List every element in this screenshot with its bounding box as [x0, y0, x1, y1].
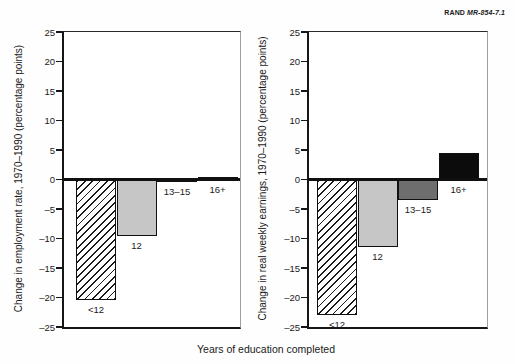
y-tick-mark [56, 179, 62, 181]
y-tick-label: –25 [27, 322, 55, 333]
y-tick-label: 15 [27, 86, 55, 97]
bar-label: <12 [72, 304, 120, 315]
bar-label: 16+ [435, 184, 483, 195]
y-tick-mark [301, 149, 307, 151]
y-tick-mark [56, 326, 62, 328]
y-tick-label: –5 [27, 204, 55, 215]
y-tick-label: –5 [272, 204, 300, 215]
bar-label: 16+ [194, 184, 242, 195]
y-tick-mark [301, 179, 307, 181]
y-tick-label: –10 [27, 233, 55, 244]
credit-document-id: MR-854-7.1 [467, 9, 505, 16]
y-tick-label: 10 [27, 115, 55, 126]
bar-13–15 [398, 180, 438, 201]
y-tick-label: 0 [27, 174, 55, 185]
y-tick-label: –20 [27, 292, 55, 303]
y-tick-mark [56, 61, 62, 63]
y-tick-label: –10 [272, 233, 300, 244]
right-y-axis-label: Change in real weekly earnings, 1970–199… [256, 14, 269, 344]
y-tick-mark [56, 120, 62, 122]
y-tick-mark [56, 208, 62, 210]
zero-baseline [64, 178, 240, 180]
y-tick-mark [301, 61, 307, 63]
y-tick-mark [301, 31, 307, 33]
y-tick-mark [301, 238, 307, 240]
y-tick-label: –15 [272, 263, 300, 274]
y-tick-mark [301, 297, 307, 299]
y-tick-label: –25 [272, 322, 300, 333]
y-tick-label: 20 [27, 56, 55, 67]
y-tick-mark [56, 267, 62, 269]
y-tick-label: 25 [27, 27, 55, 38]
y-tick-mark [301, 208, 307, 210]
bar-12 [117, 180, 157, 236]
bar-16+ [439, 153, 479, 180]
x-axis-label: Years of education completed [20, 343, 512, 355]
y-tick-mark [56, 149, 62, 151]
bar-<12 [76, 180, 116, 301]
y-tick-mark [56, 297, 62, 299]
y-tick-label: 20 [272, 56, 300, 67]
figure-credit: RAND MR-854-7.1 [444, 9, 505, 16]
bar-label: 13–15 [394, 204, 442, 215]
y-tick-mark [301, 326, 307, 328]
employment-rate-plot: 2520151050–5–10–15–20–25<121213–1516+ [62, 31, 241, 329]
y-tick-label: 0 [272, 174, 300, 185]
y-tick-mark [301, 120, 307, 122]
bar-label: 12 [113, 240, 161, 251]
credit-brand: RAND [444, 9, 465, 16]
y-tick-label: 15 [272, 86, 300, 97]
y-tick-mark [56, 31, 62, 33]
y-tick-label: 5 [27, 145, 55, 156]
bar-12 [358, 180, 398, 248]
y-tick-label: 5 [272, 145, 300, 156]
y-tick-label: 10 [272, 115, 300, 126]
zero-baseline [309, 178, 487, 180]
weekly-earnings-plot: 2520151050–5–10–15–20–25<121213–1516+ [307, 31, 488, 329]
left-y-axis-label: Change in employment rate, 1970–1990 (pe… [12, 14, 25, 344]
bar-label: 12 [354, 251, 402, 262]
y-tick-label: –15 [27, 263, 55, 274]
rand-figure: RAND MR-854-7.1 Change in employment rat… [0, 0, 514, 364]
y-tick-label: –20 [272, 292, 300, 303]
y-tick-label: 25 [272, 27, 300, 38]
bar-<12 [317, 180, 357, 316]
y-tick-mark [56, 238, 62, 240]
y-tick-mark [56, 90, 62, 92]
y-tick-mark [301, 267, 307, 269]
bar-label: <12 [313, 319, 361, 330]
y-tick-mark [301, 90, 307, 92]
